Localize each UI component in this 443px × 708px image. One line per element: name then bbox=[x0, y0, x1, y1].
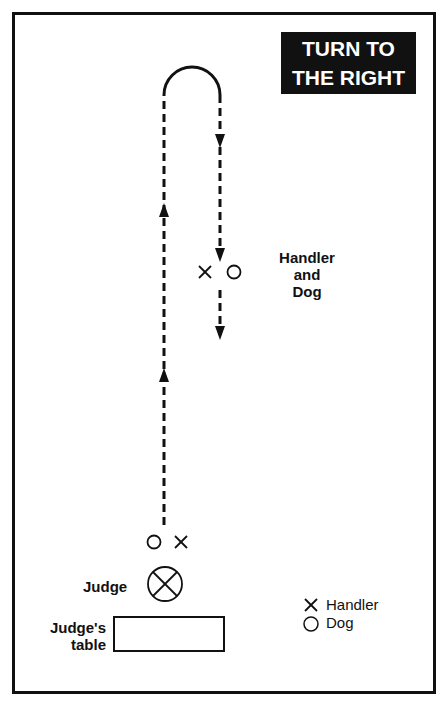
legend-item-handler: Handler bbox=[302, 596, 379, 614]
arrow-up-icon bbox=[159, 368, 169, 382]
dog-circle-icon bbox=[148, 536, 161, 549]
judges-table-label: Judge's table bbox=[40, 619, 106, 653]
legend: Handler Dog bbox=[302, 596, 379, 632]
handler-x-icon bbox=[199, 266, 211, 278]
legend-label: Handler bbox=[326, 596, 379, 614]
legend-item-dog: Dog bbox=[302, 614, 379, 632]
label-line: Dog bbox=[272, 283, 342, 300]
arrow-down-icon bbox=[215, 134, 225, 148]
label-line: Handler bbox=[272, 249, 342, 266]
judge-label: Judge bbox=[83, 578, 127, 595]
title-banner: TURN TO THE RIGHT bbox=[281, 32, 416, 94]
turn-arc bbox=[164, 67, 220, 95]
judges-table bbox=[113, 616, 225, 652]
arrow-up-icon bbox=[159, 203, 169, 217]
handler-x-icon bbox=[175, 536, 187, 548]
title-line-2: THE RIGHT bbox=[281, 63, 416, 92]
title-line-1: TURN TO bbox=[281, 34, 416, 63]
label-line: table bbox=[40, 636, 106, 653]
judge-icon bbox=[148, 567, 182, 601]
circle-icon bbox=[302, 614, 320, 632]
dog-circle-icon bbox=[228, 266, 241, 279]
legend-label: Dog bbox=[326, 614, 354, 632]
x-icon bbox=[302, 596, 320, 614]
arrow-down-icon bbox=[215, 326, 225, 340]
arrow-down-icon bbox=[215, 248, 225, 262]
label-line: and bbox=[272, 266, 342, 283]
handler-and-dog-label: Handler and Dog bbox=[272, 249, 342, 300]
label-line: Judge's bbox=[40, 619, 106, 636]
